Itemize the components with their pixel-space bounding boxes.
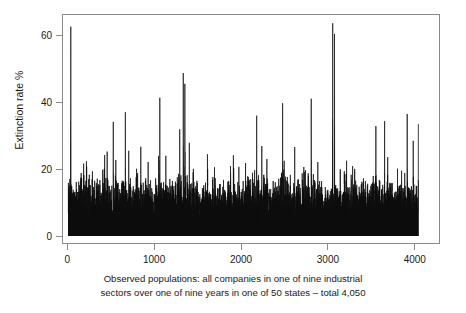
y-tick-label: 40 [41, 96, 52, 109]
x-tick-mark [241, 244, 242, 250]
x-tick-label: 0 [42, 253, 92, 266]
y-tick-label: 0 [46, 230, 52, 243]
x-tick-mark [154, 244, 155, 250]
x-tick-mark [414, 244, 415, 250]
x-tick-label: 3000 [303, 253, 353, 266]
x-axis: 01000200030004000 [0, 244, 466, 274]
y-tick-label: 60 [41, 29, 52, 42]
series-line-path [68, 23, 418, 235]
x-tick-mark [67, 244, 68, 250]
x-tick-label: 2000 [216, 253, 266, 266]
y-axis: Extinction rate % 6040200 [0, 0, 62, 258]
chart-caption: Observed populations: all companies in o… [0, 272, 466, 300]
x-tick-mark [327, 244, 328, 250]
figure-container: Extinction rate % 6040200 01000200030004… [0, 0, 466, 313]
x-tick-label: 4000 [390, 253, 440, 266]
x-tick-label: 1000 [129, 253, 179, 266]
caption-line-1: Observed populations: all companies in o… [0, 272, 466, 286]
y-tick-label: 20 [41, 163, 52, 176]
y-axis-title: Extinction rate % [13, 50, 25, 170]
data-series-spikes [63, 15, 439, 243]
plot-area [62, 14, 440, 244]
caption-line-2: sectors over one of nine years in one of… [0, 286, 466, 300]
